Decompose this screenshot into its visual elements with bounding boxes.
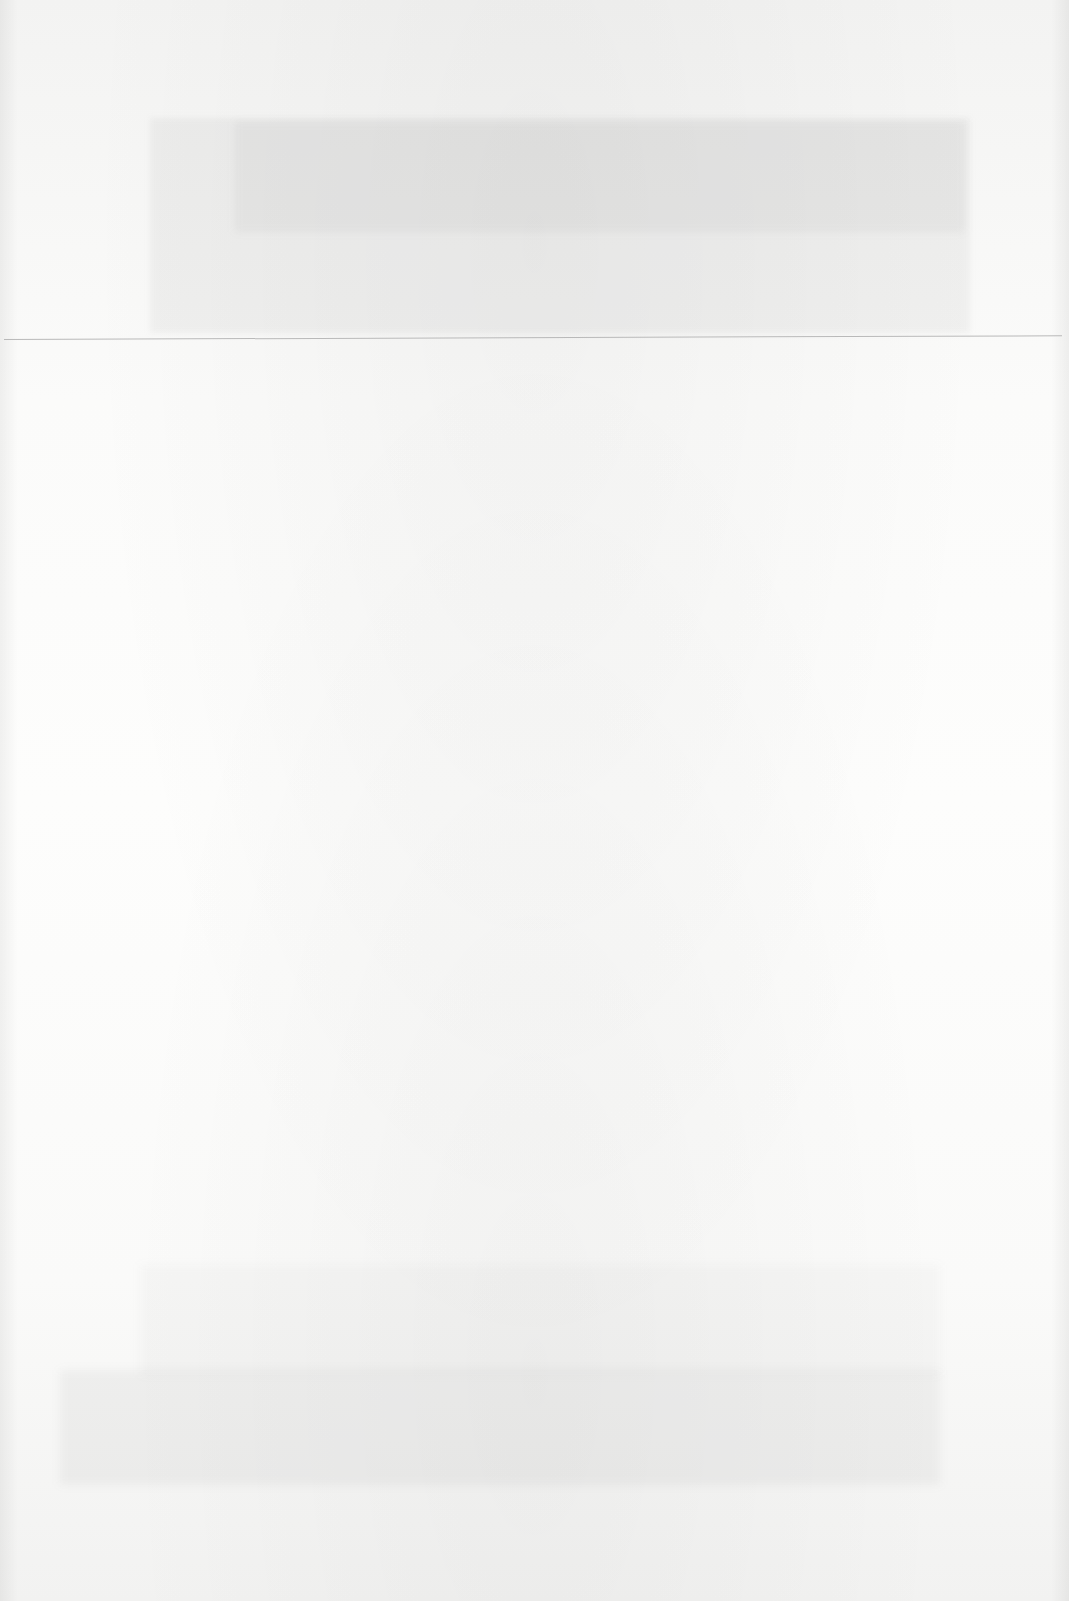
blank-scanned-page (0, 0, 1069, 1601)
horizontal-rule (4, 335, 1062, 340)
bleed-through-region-lower (140, 1265, 940, 1375)
bleed-through-region-top-dense (235, 122, 965, 232)
page-edge-shadow-left (0, 0, 18, 1601)
page-edge-shadow-right (1051, 0, 1069, 1601)
bleed-through-region-bottom (60, 1370, 940, 1485)
